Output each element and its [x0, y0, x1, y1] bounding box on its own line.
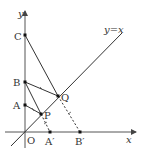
label-a: A: [12, 100, 21, 111]
coordinate-diagram: y x O y=x C B A P Q A′ B′: [0, 0, 145, 152]
point-b-prime: [79, 131, 82, 134]
label-q: Q: [61, 92, 69, 103]
point-c: [24, 34, 27, 37]
origin-label: O: [27, 135, 35, 146]
point-a: [24, 104, 27, 107]
label-c: C: [14, 31, 22, 42]
label-a-prime: A′: [44, 136, 55, 147]
point-p: [40, 113, 43, 116]
line-label: y=x: [103, 24, 124, 35]
x-axis-label: x: [126, 134, 132, 145]
point-q: [57, 95, 60, 98]
point-a-prime: [49, 131, 52, 134]
label-p: P: [44, 110, 51, 121]
label-b: B: [13, 77, 20, 88]
line-y-equals-x: [11, 33, 122, 146]
point-b: [24, 81, 27, 84]
y-axis-label: y: [17, 8, 24, 19]
label-b-prime: B′: [75, 136, 85, 147]
segment-c-q: [25, 35, 58, 96]
